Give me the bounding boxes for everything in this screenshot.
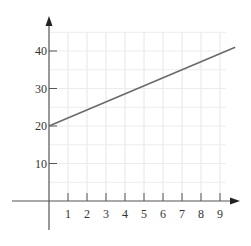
x-tick-label: 6 bbox=[160, 207, 166, 221]
grid bbox=[49, 32, 226, 201]
y-axis-arrow-icon bbox=[46, 16, 53, 26]
y-tick-label: 10 bbox=[35, 157, 47, 171]
x-tick-label: 3 bbox=[103, 207, 109, 221]
x-tick-label: 2 bbox=[84, 207, 90, 221]
x-tick-label: 7 bbox=[179, 207, 185, 221]
line-chart: 12345678910203040 bbox=[0, 0, 251, 246]
x-axis-arrow-icon bbox=[230, 198, 240, 205]
x-tick-label: 5 bbox=[141, 207, 147, 221]
y-tick-label: 20 bbox=[35, 119, 47, 133]
x-tick-label: 4 bbox=[122, 207, 128, 221]
chart-canvas: 12345678910203040 bbox=[0, 0, 251, 246]
x-tick-label: 8 bbox=[198, 207, 204, 221]
series bbox=[49, 47, 235, 126]
y-tick-label: 30 bbox=[35, 82, 47, 96]
x-tick-label: 9 bbox=[217, 207, 223, 221]
ticks: 12345678910203040 bbox=[35, 44, 223, 221]
y-tick-label: 40 bbox=[35, 44, 47, 58]
data-line bbox=[49, 47, 235, 126]
x-tick-label: 1 bbox=[65, 207, 71, 221]
